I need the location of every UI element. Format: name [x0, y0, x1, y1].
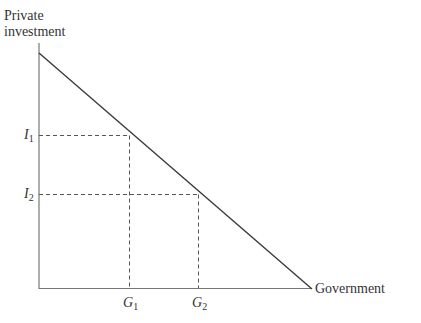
g2-i2-guides [39, 195, 199, 289]
y-axis-label-line1: Private [4, 8, 65, 24]
y-axis-label-line2: investment [4, 24, 65, 40]
g2-sub: 2 [202, 301, 207, 312]
x-axis-label: Government [315, 281, 385, 297]
diagram-canvas [0, 0, 421, 323]
i1-label: I1 [24, 127, 34, 147]
g2-label: G2 [192, 295, 207, 315]
i1-sub: 1 [29, 133, 34, 144]
g1-i1-guides [39, 136, 130, 289]
g1-label: G1 [123, 295, 138, 315]
g1-sub: 1 [133, 301, 138, 312]
i2-label: I2 [24, 186, 34, 206]
tradeoff-line [39, 53, 312, 289]
i2-sub: 2 [29, 192, 34, 203]
g1-main: G [123, 295, 133, 310]
g2-main: G [192, 295, 202, 310]
y-axis-label: Private investment [4, 8, 65, 40]
